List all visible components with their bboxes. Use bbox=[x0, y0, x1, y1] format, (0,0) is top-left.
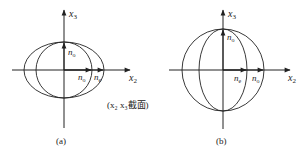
index-ellipsoid-diagrams: x3 x2 no no ne (x₂ x₃截面) (a) x3 x2 no ne… bbox=[0, 0, 305, 159]
ne-label-horizontal-a: ne bbox=[94, 72, 102, 83]
no-label-horizontal-b: no bbox=[252, 73, 260, 84]
diagram-a: x3 x2 no no ne (x₂ x₃截面) (a) bbox=[12, 8, 149, 146]
caption-b: (b) bbox=[216, 136, 227, 146]
no-label-horizontal-a: no bbox=[78, 72, 86, 83]
x2-label-b: x2 bbox=[287, 72, 296, 85]
diagram-b: x3 x2 no ne no (b) bbox=[169, 8, 296, 146]
x3-label-b: x3 bbox=[227, 8, 236, 21]
ne-label-horizontal-b: ne bbox=[234, 73, 242, 84]
caption-a: (a) bbox=[56, 136, 66, 146]
section-note-a: (x₂ x₃截面) bbox=[107, 99, 149, 110]
no-label-vertical-b: no bbox=[227, 32, 235, 43]
x2-label-a: x2 bbox=[128, 72, 137, 85]
x3-label-a: x3 bbox=[68, 8, 77, 21]
no-label-vertical-a: no bbox=[68, 47, 76, 58]
